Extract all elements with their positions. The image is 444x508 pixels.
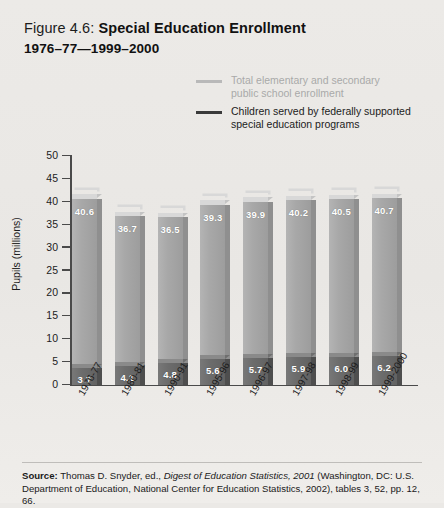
bar-series-group: 40.63.736.74.136.54.839.35.639.95.740.25…: [70, 148, 418, 386]
legend-line-icon-total: [196, 80, 222, 83]
bar-top-cap: [115, 212, 140, 217]
bar-stack: 40.25.9: [286, 200, 311, 384]
y-axis-tick-label: 35: [34, 219, 58, 229]
y-axis-tick-label: 15: [34, 310, 58, 320]
bar-top-cap: [158, 213, 183, 218]
bar-side-face-total: [311, 200, 316, 357]
bar-top-cap: [329, 195, 354, 200]
y-axis-tick-label: 10: [34, 333, 58, 343]
bar-value-label-total: 40.6: [72, 206, 97, 217]
y-axis-tick: [62, 292, 70, 293]
bar-served-cap: [286, 353, 311, 357]
bar-side-face-total: [140, 216, 145, 365]
bar-top-cap: [286, 196, 311, 201]
bar-segment-total[interactable]: 40.6: [72, 199, 97, 368]
bar-side-face-total: [97, 199, 102, 368]
bar-side-face-total: [183, 217, 188, 362]
y-axis-tick-label: 50: [34, 150, 58, 160]
legend-line-icon-served: [196, 111, 222, 114]
y-axis-tick: [62, 155, 70, 156]
y-axis-tick-label: 20: [34, 287, 58, 297]
bar-value-label-total: 40.5: [329, 206, 354, 217]
bar-segment-total[interactable]: 39.3: [200, 205, 225, 359]
bar-group[interactable]: 40.63.7: [72, 199, 101, 385]
source-text-2: (Washington, DC: U.S.: [315, 470, 414, 481]
bar-segment-total[interactable]: 40.5: [329, 199, 354, 357]
bar-value-label-total: 39.9: [243, 209, 268, 220]
source-note: Source: Thomas D. Snyder, ed., Digest of…: [22, 470, 432, 508]
y-axis-tick-label: 25: [34, 265, 58, 275]
bar-stack: 39.95.7: [243, 202, 268, 385]
bar-side-face-total: [397, 198, 402, 356]
bar-stack: 40.63.7: [72, 199, 97, 385]
y-axis-tick: [62, 315, 70, 316]
figure-number: Figure 4.6:: [24, 20, 94, 36]
y-axis-tick: [62, 178, 70, 179]
bar-top-cap: [200, 200, 225, 205]
y-axis-tick: [62, 224, 70, 225]
bar-group[interactable]: 40.56.0: [329, 199, 358, 384]
bar-value-label-total: 40.7: [372, 205, 397, 216]
legend-item-total: Total elementary and secondary public sc…: [196, 74, 434, 100]
bar-segment-total[interactable]: 36.7: [115, 216, 140, 365]
bar-group[interactable]: 36.74.1: [115, 216, 144, 384]
y-axis-tick-label: 40: [34, 196, 58, 206]
bar-served-cap: [329, 353, 354, 357]
figure-title: Special Education Enrollment: [98, 20, 305, 36]
legend-label-total-line1: Total elementary and secondary: [231, 74, 380, 86]
figure-subtitle: 1976–77—1999–2000: [24, 39, 424, 58]
bar-segment-total[interactable]: 36.5: [158, 217, 183, 362]
y-axis-tick: [62, 384, 70, 385]
y-axis-tick: [62, 201, 70, 202]
x-axis-labels: 1976-771980-811990-911995-961996-971997-…: [70, 388, 418, 458]
legend-label-total-line2: public school enrollment: [231, 87, 344, 99]
legend-label-served-line2: special education programs: [231, 118, 359, 130]
y-axis-tick-label: 5: [34, 356, 58, 366]
figure-title-block: Figure 4.6: Special Education Enrollment…: [24, 18, 424, 58]
bar-top-cap: [372, 194, 397, 199]
bar-value-label-total: 36.7: [115, 223, 140, 234]
source-text-1: Thomas D. Snyder, ed.,: [58, 470, 164, 481]
bar-value-label-total: 40.2: [286, 207, 311, 218]
source-label: Source:: [22, 470, 58, 481]
bar-value-label-total: 39.3: [200, 212, 225, 223]
page-title: Figure 4.6: Special Education Enrollment: [24, 18, 424, 38]
bar-served-cap: [372, 352, 397, 356]
bar-group[interactable]: 36.54.8: [158, 217, 187, 384]
legend-item-served: Children served by federally supported s…: [196, 105, 434, 131]
legend-label-served-line1: Children served by federally supported: [231, 105, 411, 117]
bar-top-cap: [72, 194, 97, 199]
y-axis-label: Pupils (millions): [10, 194, 22, 314]
y-axis-tick: [62, 246, 70, 247]
bar-segment-total[interactable]: 40.2: [286, 200, 311, 357]
legend-label-total: Total elementary and secondary public sc…: [231, 74, 380, 100]
legend-label-served: Children served by federally supported s…: [231, 105, 411, 131]
bar-group[interactable]: 39.35.6: [200, 205, 229, 385]
bar-stack: 40.56.0: [329, 199, 354, 384]
chart-plot-area: Pupils (millions) 05101520253035404550 4…: [0, 148, 444, 398]
bar-group[interactable]: 39.95.7: [243, 202, 272, 385]
source-text-3: Department of Education, National Center…: [22, 483, 420, 507]
bar-served-cap: [200, 355, 225, 359]
y-axis-tick: [62, 269, 70, 270]
y-axis-tick-label: 0: [34, 379, 58, 389]
bar-served-cap: [243, 354, 268, 358]
bar-segment-total[interactable]: 40.7: [372, 198, 397, 356]
bar-value-label-total: 36.5: [158, 224, 183, 235]
y-axis-tick-label: 45: [34, 173, 58, 183]
y-axis-tick: [62, 338, 70, 339]
bar-side-face-total: [225, 205, 230, 359]
y-axis-tick: [62, 361, 70, 362]
bar-stack: 40.76.2: [372, 198, 397, 384]
bar-group[interactable]: 40.25.9: [286, 200, 315, 384]
bar-stack: 39.35.6: [200, 205, 225, 385]
bar-stack: 36.74.1: [115, 216, 140, 384]
bar-top-cap: [243, 197, 268, 202]
y-axis-tick-label: 30: [34, 242, 58, 252]
bar-stack: 36.54.8: [158, 217, 183, 384]
source-italic-title: Digest of Education Statistics, 2001: [164, 470, 315, 481]
bar-side-face-total: [354, 199, 359, 357]
bar-side-face-total: [268, 202, 273, 359]
bar-segment-total[interactable]: 39.9: [243, 202, 268, 359]
